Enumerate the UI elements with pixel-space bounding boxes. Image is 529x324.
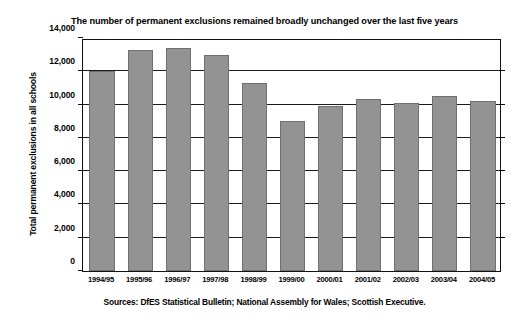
y-axis-tick-right xyxy=(500,137,505,138)
y-axis-tick-right xyxy=(500,203,505,204)
x-axis-tick-label: 2002/03 xyxy=(393,275,419,284)
bar xyxy=(470,101,495,271)
y-axis-tick-label: 10,000 xyxy=(49,90,75,100)
y-axis-tick-label: 8,000 xyxy=(54,123,75,133)
y-axis-title: Total permanent exclusions in all school… xyxy=(28,38,42,270)
y-axis-tick-label: 6,000 xyxy=(54,156,75,166)
bar xyxy=(128,50,153,271)
bar xyxy=(89,71,114,271)
x-axis-tick-label: 2001/02 xyxy=(355,275,381,284)
x-axis-tick-label: 1995/96 xyxy=(126,275,152,284)
y-axis-tick-label: 4,000 xyxy=(54,189,75,199)
bar xyxy=(242,83,267,271)
bar xyxy=(356,99,381,271)
source-note: Sources: DfES Statistical Bulletin; Nati… xyxy=(0,297,529,307)
x-axis-tick-label: 2004/05 xyxy=(469,275,495,284)
y-axis-tick xyxy=(78,37,83,38)
x-axis-tick-label: 1996/97 xyxy=(164,275,190,284)
y-axis-tick-label: 14,000 xyxy=(49,23,75,33)
y-axis-tick-label: 12,000 xyxy=(49,56,75,66)
bar xyxy=(204,55,229,271)
plot-area: 02,0004,0006,0008,00010,00012,00014,000 xyxy=(82,39,501,272)
x-axis-tick-label: 2000/01 xyxy=(317,275,343,284)
bar-series xyxy=(83,40,500,271)
x-axis-tick-label: 2003/04 xyxy=(431,275,457,284)
bar xyxy=(318,106,343,271)
x-axis-tick-label: 1998/99 xyxy=(240,275,266,284)
bar xyxy=(432,96,457,271)
y-axis-tick-right xyxy=(500,104,505,105)
y-axis-tick-label: 0 xyxy=(70,256,75,266)
bar xyxy=(394,103,419,271)
x-axis-tick-label: 1994/95 xyxy=(88,275,114,284)
bar-chart: The number of permanent exclusions remai… xyxy=(0,0,529,324)
bar xyxy=(166,48,191,271)
x-axis-tick-label: 1997/98 xyxy=(202,275,228,284)
bar xyxy=(280,121,305,271)
x-axis-tick-labels: 1994/951995/961996/971997/981998/991999/… xyxy=(82,275,501,289)
y-axis-tick-label: 2,000 xyxy=(54,223,75,233)
x-axis-tick-label: 1999/00 xyxy=(278,275,304,284)
y-axis-tick-right xyxy=(500,170,505,171)
y-axis-tick-right xyxy=(500,70,505,71)
chart-title: The number of permanent exclusions remai… xyxy=(0,16,529,26)
y-axis-tick-right xyxy=(500,237,505,238)
